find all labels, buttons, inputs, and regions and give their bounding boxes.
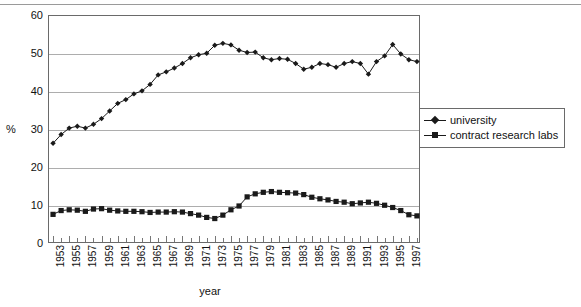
data-point — [83, 125, 88, 130]
data-point — [309, 195, 314, 200]
x-tick-label-1993: 1993 — [380, 245, 390, 267]
data-point — [358, 200, 363, 205]
data-point — [91, 206, 96, 211]
data-point — [406, 212, 411, 217]
data-point — [285, 57, 290, 62]
x-tick-label-1979: 1979 — [266, 245, 276, 267]
series-line — [53, 43, 417, 143]
data-point — [228, 207, 233, 212]
x-tick-label-1977: 1977 — [250, 245, 260, 267]
data-point — [172, 209, 177, 214]
data-point — [139, 209, 144, 214]
data-point — [333, 199, 338, 204]
data-point — [220, 213, 225, 218]
data-point — [75, 124, 80, 129]
data-point — [236, 203, 241, 208]
data-point — [228, 42, 233, 47]
x-tick-label-1987: 1987 — [331, 245, 341, 267]
data-point — [414, 213, 419, 218]
data-point — [398, 208, 403, 213]
figure-top-rule — [0, 4, 581, 5]
data-point — [350, 201, 355, 206]
series-university — [50, 41, 419, 146]
data-point — [245, 194, 250, 199]
legend-label-university: university — [450, 115, 496, 126]
data-point — [366, 200, 371, 205]
data-point — [390, 205, 395, 210]
plot-area — [48, 15, 420, 243]
data-point — [269, 57, 274, 62]
x-tick-label-1973: 1973 — [218, 245, 228, 267]
data-point — [164, 69, 169, 74]
y-tick-label-20: 20 — [0, 162, 43, 173]
chart-legend: university contract research labs — [419, 108, 565, 148]
data-point — [83, 209, 88, 214]
data-point — [99, 206, 104, 211]
x-tick-label-1969: 1969 — [185, 245, 195, 267]
data-point — [261, 190, 266, 195]
data-point — [220, 41, 225, 46]
legend-item-contract-research-labs: contract research labs — [424, 128, 558, 143]
data-point — [123, 209, 128, 214]
data-point — [164, 209, 169, 214]
data-point — [293, 190, 298, 195]
x-tick-label-1961: 1961 — [121, 245, 131, 267]
x-tick-label-1971: 1971 — [202, 245, 212, 267]
x-tick-label-1989: 1989 — [347, 245, 357, 267]
legend-marker-diamond-icon — [424, 115, 446, 126]
data-point — [333, 65, 338, 70]
x-tick-label-1953: 1953 — [56, 245, 66, 267]
data-point — [325, 197, 330, 202]
y-tick-label-40: 40 — [0, 86, 43, 97]
data-point — [374, 201, 379, 206]
data-point — [382, 203, 387, 208]
x-tick-label-1963: 1963 — [137, 245, 147, 267]
data-point — [325, 62, 330, 67]
data-point — [50, 212, 55, 217]
y-tick-label-60: 60 — [0, 10, 43, 21]
x-tick-label-1957: 1957 — [88, 245, 98, 267]
data-point — [317, 61, 322, 66]
data-point — [317, 196, 322, 201]
data-point — [350, 59, 355, 64]
x-tick-label-1959: 1959 — [105, 245, 115, 267]
data-point — [188, 211, 193, 216]
x-tick-label-1983: 1983 — [299, 245, 309, 267]
data-point — [236, 48, 241, 53]
y-axis-unit-label: % — [6, 124, 16, 135]
x-tick-label-1997: 1997 — [412, 245, 422, 267]
data-point — [180, 209, 185, 214]
data-point — [196, 52, 201, 57]
data-point — [253, 191, 258, 196]
x-tick-label-1995: 1995 — [396, 245, 406, 267]
chart-figure: 0102030%405060 1953195519571959196119631… — [0, 0, 581, 307]
data-point — [309, 65, 314, 70]
data-point — [277, 190, 282, 195]
legend-marker-square-icon — [424, 130, 446, 141]
x-tick-label-1985: 1985 — [315, 245, 325, 267]
data-point — [301, 192, 306, 197]
data-point — [204, 215, 209, 220]
x-tick-label-1991: 1991 — [363, 245, 373, 267]
x-tick-label-1967: 1967 — [169, 245, 179, 267]
data-series-layer — [49, 16, 421, 244]
data-point — [277, 56, 282, 61]
series-contract-research-labs — [50, 189, 419, 221]
data-point — [75, 208, 80, 213]
y-tick-label-50: 50 — [0, 48, 43, 59]
data-point — [67, 207, 72, 212]
data-point — [285, 190, 290, 195]
data-point — [269, 189, 274, 194]
data-point — [107, 208, 112, 213]
x-axis-tick-labels: 1953195519571959196119631965196719691971… — [0, 245, 581, 290]
data-point — [59, 208, 64, 213]
data-point — [244, 50, 249, 55]
data-point — [156, 209, 161, 214]
data-point — [115, 208, 120, 213]
x-tick-label-1965: 1965 — [153, 245, 163, 267]
legend-item-university: university — [424, 113, 558, 128]
x-tick-label-1955: 1955 — [72, 245, 82, 267]
data-point — [212, 216, 217, 221]
data-point — [196, 213, 201, 218]
data-point — [131, 209, 136, 214]
